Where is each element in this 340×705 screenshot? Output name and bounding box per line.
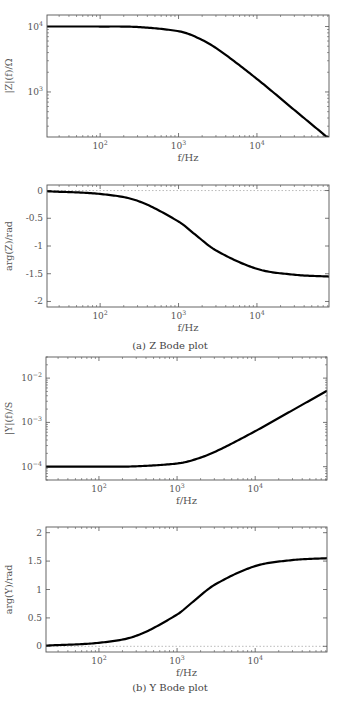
x-minor-ticks — [59, 185, 328, 307]
y-tick-label: 103 — [28, 85, 43, 97]
y-tick-label: 0 — [36, 641, 42, 651]
x-tick-label: 102 — [92, 139, 107, 151]
plot-y_phase: 10210310400.511.52f/Hzarg(Y)/rad — [3, 527, 327, 678]
y-axis-label: |Z|(f)/Ω — [3, 58, 15, 93]
y-tick-label: 10−3 — [21, 415, 42, 427]
x-tick-label: 104 — [249, 139, 264, 151]
curve-y_mag — [46, 391, 327, 467]
y-tick-label: 104 — [28, 20, 43, 32]
curve-z_mag — [47, 26, 329, 137]
curve-y_phase — [46, 558, 327, 645]
x-tick-label: 102 — [91, 482, 106, 494]
x-axis-label: f/Hz — [177, 152, 198, 163]
y-tick-label: 0.5 — [28, 613, 43, 623]
plot-z_mag: 102103104103104f/Hz|Z|(f)/Ω — [3, 15, 329, 163]
y-tick-label: 10−4 — [21, 460, 42, 472]
plot-frame — [47, 185, 329, 307]
caption-a: (a) Z Bode plot — [0, 340, 340, 351]
y-tick-label: -1.5 — [26, 269, 44, 279]
y-tick-label: 1.5 — [28, 556, 43, 566]
x-tick-label: 102 — [91, 654, 106, 666]
plot-y_mag: 10210310410−410−310−2f/Hz|Y|(f)/S — [3, 357, 327, 506]
x-axis-label: f/Hz — [176, 667, 197, 678]
x-tick-label: 104 — [247, 654, 262, 666]
x-minor-ticks — [58, 527, 326, 652]
x-tick-label: 104 — [249, 309, 264, 321]
x-axis-label: f/Hz — [177, 322, 198, 333]
y-tick-label: -1 — [34, 241, 43, 251]
x-tick-label: 103 — [169, 482, 184, 494]
y-tick-label: 10−2 — [21, 371, 42, 383]
y-axis-label: arg(Z)/rad — [3, 221, 14, 271]
x-tick-label: 104 — [247, 482, 262, 494]
y-tick-label: 0 — [37, 186, 43, 196]
y-tick-label: -0.5 — [26, 213, 44, 223]
curve-z_phase — [47, 191, 329, 276]
plot-frame — [46, 527, 327, 652]
x-tick-label: 103 — [171, 309, 186, 321]
x-axis-label: f/Hz — [176, 495, 197, 506]
y-axis-label: |Y|(f)/S — [3, 402, 15, 435]
bode-figure: 102103104103104f/Hz|Z|(f)/Ω1021031040-0.… — [0, 0, 340, 705]
y-tick-label: 1 — [36, 585, 42, 595]
plot-z_phase: 1021031040-0.5-1-1.5-2f/Hzarg(Z)/rad — [3, 185, 329, 333]
caption-b: (b) Y Bode plot — [0, 682, 340, 693]
x-tick-label: 102 — [92, 309, 107, 321]
y-tick-label: -2 — [34, 296, 43, 306]
x-tick-label: 103 — [171, 139, 186, 151]
y-axis-label: arg(Y)/rad — [3, 565, 14, 614]
y-tick-label: 2 — [36, 528, 42, 538]
x-tick-label: 103 — [169, 654, 184, 666]
